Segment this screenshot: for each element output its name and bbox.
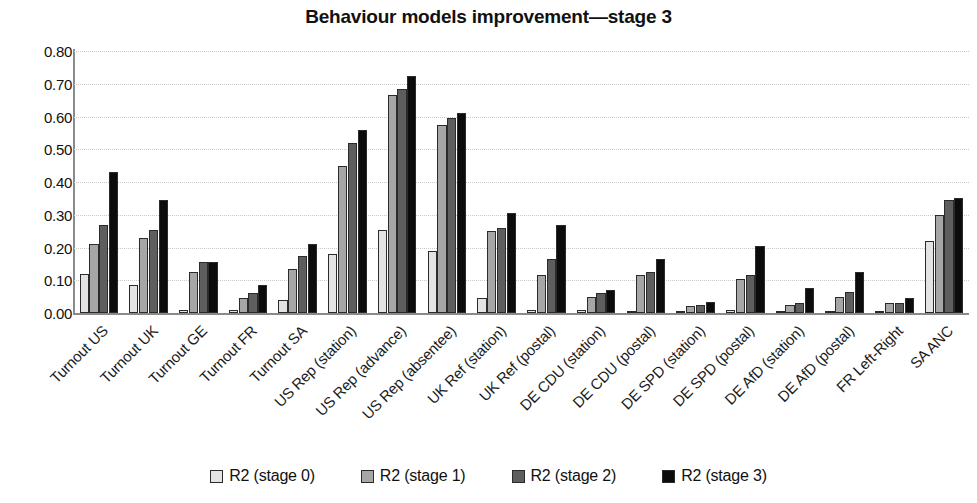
bar-group — [875, 51, 914, 313]
bar[interactable] — [537, 275, 546, 313]
bar[interactable] — [835, 297, 844, 313]
bar[interactable] — [646, 272, 655, 313]
legend-label: R2 (stage 0) — [229, 467, 315, 485]
bar[interactable] — [457, 113, 466, 313]
bar[interactable] — [199, 262, 208, 313]
bar[interactable] — [208, 262, 217, 313]
bar[interactable] — [556, 225, 565, 313]
bar-group — [577, 51, 616, 313]
bar[interactable] — [596, 293, 605, 313]
bar[interactable] — [656, 259, 665, 313]
bar[interactable] — [348, 143, 357, 313]
bar[interactable] — [676, 311, 685, 313]
bar[interactable] — [258, 285, 267, 313]
bar[interactable] — [109, 172, 118, 313]
legend-item[interactable]: R2 (stage 2) — [512, 467, 617, 485]
bars-layer — [74, 51, 969, 313]
bar[interactable] — [944, 200, 953, 313]
bar[interactable] — [129, 285, 138, 313]
bar[interactable] — [338, 166, 347, 313]
bar[interactable] — [308, 244, 317, 313]
bar[interactable] — [736, 279, 745, 313]
bar[interactable] — [606, 290, 615, 313]
bar[interactable] — [437, 125, 446, 313]
bar[interactable] — [179, 310, 188, 313]
legend-item[interactable]: R2 (stage 1) — [361, 467, 466, 485]
legend-item[interactable]: R2 (stage 0) — [210, 467, 315, 485]
bar-group — [825, 51, 864, 313]
bar[interactable] — [378, 230, 387, 314]
legend-swatch-icon — [210, 470, 223, 483]
x-axis-category-labels: Turnout USTurnout UKTurnout GETurnout FR… — [0, 318, 977, 448]
legend-label: R2 (stage 2) — [531, 467, 617, 485]
bar[interactable] — [358, 130, 367, 313]
bar-group — [477, 51, 516, 313]
bar[interactable] — [298, 256, 307, 313]
bar[interactable] — [954, 198, 963, 313]
legend-item[interactable]: R2 (stage 3) — [662, 467, 767, 485]
bar[interactable] — [477, 298, 486, 313]
bar[interactable] — [795, 303, 804, 313]
bar[interactable] — [487, 231, 496, 313]
bar-group — [328, 51, 367, 313]
legend-label: R2 (stage 1) — [380, 467, 466, 485]
bar[interactable] — [905, 298, 914, 313]
bar[interactable] — [776, 311, 785, 313]
bar[interactable] — [855, 272, 864, 313]
bar[interactable] — [248, 293, 257, 313]
bar[interactable] — [278, 300, 287, 313]
bar[interactable] — [89, 244, 98, 313]
bar[interactable] — [407, 76, 416, 313]
bar[interactable] — [845, 292, 854, 313]
bar[interactable] — [428, 251, 437, 313]
bar-group — [627, 51, 666, 313]
bar[interactable] — [288, 269, 297, 313]
bar[interactable] — [696, 305, 705, 313]
bar[interactable] — [497, 228, 506, 313]
bar[interactable] — [229, 310, 238, 313]
y-axis-tick-label: 0.60 — [44, 108, 72, 125]
bar[interactable] — [726, 310, 735, 313]
bar[interactable] — [80, 274, 89, 313]
bar[interactable] — [388, 95, 397, 313]
bar[interactable] — [825, 311, 834, 313]
bar[interactable] — [686, 306, 695, 313]
bar[interactable] — [547, 259, 556, 313]
bar[interactable] — [805, 288, 814, 313]
bar[interactable] — [746, 275, 755, 313]
bar[interactable] — [627, 311, 636, 313]
legend-label: R2 (stage 3) — [681, 467, 767, 485]
bar[interactable] — [328, 254, 337, 313]
bar[interactable] — [527, 310, 536, 313]
bar[interactable] — [935, 215, 944, 313]
bar[interactable] — [189, 272, 198, 313]
chart-legend: R2 (stage 0)R2 (stage 1)R2 (stage 2)R2 (… — [0, 467, 977, 485]
bar[interactable] — [885, 303, 894, 313]
bar[interactable] — [507, 213, 516, 313]
bar[interactable] — [159, 200, 168, 313]
bar[interactable] — [577, 310, 586, 313]
bar[interactable] — [139, 238, 148, 313]
bar-group — [80, 51, 119, 313]
bar[interactable] — [755, 246, 764, 313]
bar[interactable] — [397, 89, 406, 313]
bar[interactable] — [875, 311, 884, 313]
bar[interactable] — [636, 275, 645, 313]
bar-group — [776, 51, 815, 313]
bar[interactable] — [785, 305, 794, 313]
bar[interactable] — [925, 241, 934, 313]
bar[interactable] — [99, 225, 108, 313]
bar[interactable] — [895, 303, 904, 313]
y-axis-tick-label: 0.50 — [44, 141, 72, 158]
bar-group — [278, 51, 317, 313]
bar[interactable] — [239, 298, 248, 313]
bar-group — [179, 51, 218, 313]
bar[interactable] — [149, 230, 158, 314]
bar[interactable] — [706, 302, 715, 313]
bar-group — [378, 51, 417, 313]
plot-area — [74, 51, 969, 313]
bar[interactable] — [587, 297, 596, 313]
bar-group — [129, 51, 168, 313]
bar[interactable] — [447, 118, 456, 313]
legend-swatch-icon — [361, 470, 374, 483]
